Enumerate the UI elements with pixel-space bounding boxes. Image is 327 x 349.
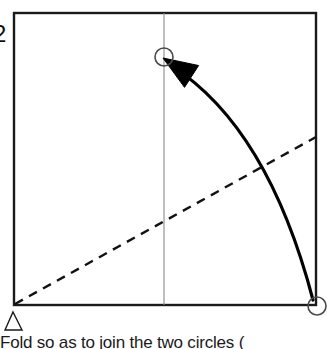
figure-caption: Fold so as to join the two circles ( [0, 333, 327, 349]
fold-diagram [0, 0, 327, 349]
origami-figure: 2 Fold so as to join the two circles ( [0, 0, 327, 349]
triangle-alignment-marker-icon [5, 312, 22, 330]
paper-square [14, 13, 316, 305]
